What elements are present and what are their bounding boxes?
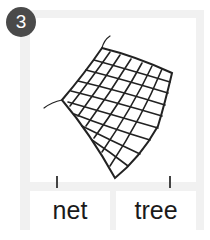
net-icon — [30, 18, 196, 182]
picture-panel — [30, 18, 196, 182]
pointer-line-right — [169, 176, 171, 188]
question-number: 3 — [16, 11, 27, 33]
choice-label: tree — [134, 196, 177, 225]
choice-tree-button[interactable]: tree — [116, 191, 196, 230]
question-number-badge: 3 — [6, 7, 36, 37]
choice-net-button[interactable]: net — [30, 191, 110, 230]
pointer-line-left — [56, 176, 58, 188]
choice-label: net — [53, 196, 88, 225]
